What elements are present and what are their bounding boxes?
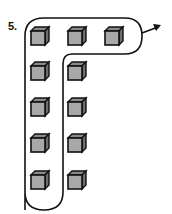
cube-icon bbox=[68, 62, 86, 80]
cube-icon bbox=[105, 27, 123, 45]
cube-icon bbox=[31, 171, 49, 189]
cube-icon bbox=[31, 134, 49, 152]
cube-icon bbox=[31, 27, 49, 45]
cube-icon bbox=[31, 62, 49, 80]
cube-icon bbox=[68, 98, 86, 116]
cube-icon bbox=[68, 134, 86, 152]
cube-icon bbox=[68, 27, 86, 45]
arrow-icon bbox=[142, 24, 161, 33]
cube-icon bbox=[31, 98, 49, 116]
cube-icon bbox=[68, 171, 86, 189]
cube-diagram bbox=[0, 0, 172, 214]
cubes-group bbox=[31, 27, 123, 189]
